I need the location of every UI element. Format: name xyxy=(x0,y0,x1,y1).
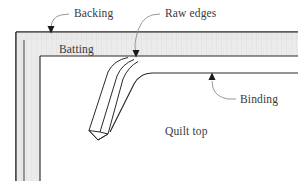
diagram-canvas: Backing Raw edges Binding Batting Quilt … xyxy=(0,0,298,181)
backing-leader-line xyxy=(51,14,69,27)
binding-arrow-icon xyxy=(209,73,216,81)
quilt-top-label: Quilt top xyxy=(165,125,208,138)
batting-label: Batting xyxy=(59,43,94,56)
backing-label: Backing xyxy=(74,7,113,20)
binding-label: Binding xyxy=(240,93,278,106)
binding-leader-line xyxy=(212,81,236,99)
raw-edges-label: Raw edges xyxy=(165,7,217,20)
callout-binding: Binding xyxy=(209,73,279,107)
quilt-binding-diagram: Backing Raw edges Binding Batting Quilt … xyxy=(0,0,298,181)
callout-backing: Backing xyxy=(48,7,114,34)
folded-binding-strip xyxy=(89,58,138,141)
